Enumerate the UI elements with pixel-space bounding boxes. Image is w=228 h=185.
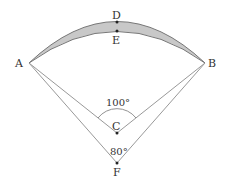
geometry-diagram: D E A B C F 100° 80° [0,0,228,185]
segment-BC [117,63,205,133]
label-A: A [14,57,24,70]
label-C: C [112,120,120,133]
segment-AF [29,63,117,163]
label-F: F [113,166,121,179]
point-F [116,162,119,165]
point-E [116,30,119,33]
angle-label-F: 80° [110,146,128,157]
label-B: B [208,57,216,70]
label-D: D [112,9,121,22]
label-E: E [112,34,120,47]
angle-label-C: 100° [106,97,130,108]
segment-AC [29,63,117,133]
angle-arc-C [98,109,136,118]
segment-BF [117,63,205,163]
